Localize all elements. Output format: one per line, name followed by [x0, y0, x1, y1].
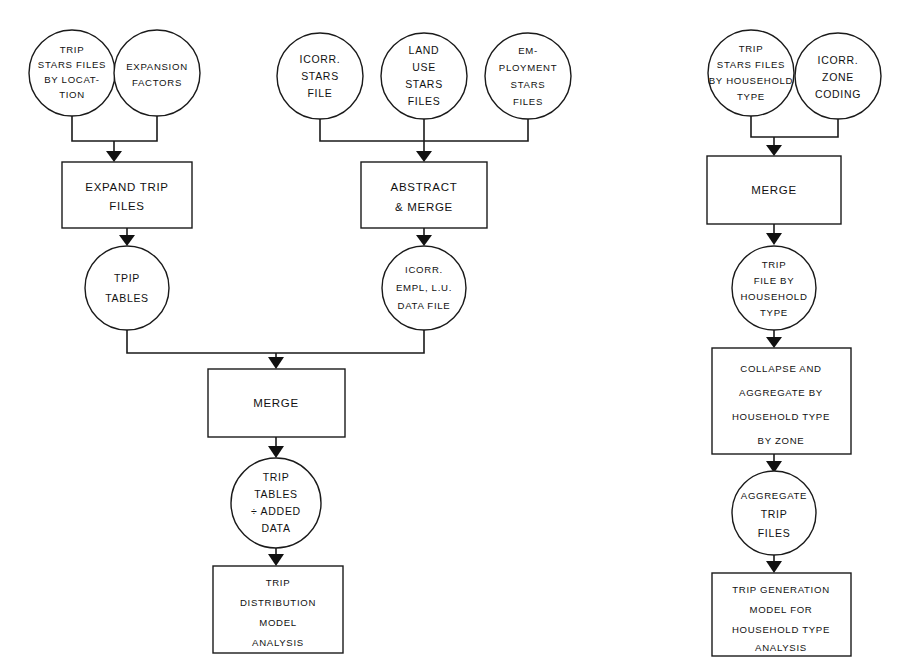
label-trip-file-household-line3: HOUSEHOLD [740, 291, 807, 302]
label-tpip-tables-line2: TABLES [105, 292, 149, 304]
group-middle-branch: ICORR. STARS FILE LAND USE STARS FILES E… [277, 33, 571, 330]
group-center-merge: MERGE TRIP TABLES ÷ ADDED DATA TRIP DIST… [127, 330, 424, 653]
label-collapse-line3: HOUSEHOLD TYPE [732, 411, 830, 422]
label-land-use-line1: LAND [409, 44, 440, 56]
node-trip-stars-files-by-location[interactable] [29, 30, 115, 116]
label-trip-stars-household-line3: BY HOUSEHOLD [709, 75, 793, 86]
label-icorr-empl-line1: ICORR. [405, 264, 443, 275]
node-tpip-tables[interactable] [85, 246, 169, 330]
label-aggregate-trip-line3: FILES [758, 527, 791, 539]
label-expand-trip-files-line2: FILES [109, 200, 144, 212]
label-trip-stars-by-location-line3: BY LOCAT- [44, 74, 100, 85]
label-trip-file-household-line2: FILE BY [754, 275, 795, 286]
label-merge-center: MERGE [253, 397, 299, 409]
label-trip-tables-added-line3: ÷ ADDED [251, 505, 301, 517]
label-collapse-line4: BY ZONE [758, 435, 805, 446]
label-icorr-zone-line3: CODING [815, 88, 861, 100]
label-icorr-stars-file-line3: FILE [308, 87, 333, 99]
label-trip-distribution-line1: TRIP [266, 577, 291, 588]
label-icorr-stars-file-line1: ICORR. [300, 53, 341, 65]
label-employment-line3: STARS [511, 79, 546, 90]
label-trip-generation-line1: TRIP GENERATION [732, 584, 830, 595]
label-trip-stars-household-line2: STARS FILES [717, 59, 785, 70]
label-trip-generation-line2: MODEL FOR [750, 604, 813, 615]
label-aggregate-trip-line2: TRIP [761, 508, 788, 520]
group-left-branch: TRIP STARS FILES BY LOCAT- TION EXPANSIO… [29, 30, 200, 330]
label-icorr-zone-line1: ICORR. [818, 54, 859, 66]
label-expand-trip-files-line1: EXPAND TRIP [85, 181, 168, 193]
label-trip-tables-added-line4: DATA [261, 522, 290, 534]
arrowhead-trip-generation-model [766, 561, 782, 573]
label-trip-stars-by-location-line1: TRIP [60, 44, 85, 55]
label-collapse-line2: AGGREGATE BY [739, 387, 823, 398]
label-expansion-factors-line2: FACTORS [132, 77, 182, 88]
label-land-use-line4: FILES [408, 95, 441, 107]
connector-household-and-zone-to-merge [751, 116, 838, 137]
label-trip-file-household-line4: TYPE [760, 307, 788, 318]
label-collapse-line1: COLLAPSE AND [740, 363, 821, 374]
label-trip-tables-added-line1: TRIP [263, 471, 290, 483]
arrowhead-trip-file-household-type [766, 233, 782, 245]
node-expand-trip-files[interactable] [62, 162, 192, 228]
arrowhead-collapse-and-aggregate [766, 337, 782, 348]
label-trip-distribution-line4: ANALYSIS [252, 637, 304, 648]
arrowhead-merge-right [766, 145, 782, 156]
group-right-branch: TRIP STARS FILES BY HOUSEHOLD TYPE ICORR… [707, 30, 881, 656]
label-trip-stars-household-line4: TYPE [737, 91, 765, 102]
arrowhead-icorr-empl-data-file [416, 235, 432, 246]
label-land-use-line2: USE [412, 61, 436, 73]
label-expansion-factors-line1: EXPANSION [126, 61, 188, 72]
label-trip-distribution-line2: DISTRIBUTION [240, 597, 316, 608]
node-expansion-factors[interactable] [114, 30, 200, 116]
label-trip-generation-line3: HOUSEHOLD TYPE [732, 624, 830, 635]
arrowhead-abstract-merge [416, 151, 432, 162]
label-icorr-empl-line3: DATA FILE [398, 300, 451, 311]
label-employment-line4: FILES [513, 96, 543, 107]
label-land-use-line3: STARS [405, 78, 443, 90]
label-employment-line1: EM- [518, 45, 538, 56]
label-trip-file-household-line1: TRIP [762, 259, 787, 270]
label-trip-stars-by-location-line2: STARS FILES [38, 59, 106, 70]
label-tpip-tables-line1: TPIP [114, 272, 140, 284]
label-icorr-zone-line2: ZONE [822, 71, 854, 83]
arrowhead-tpip-tables [119, 235, 135, 246]
node-abstract-and-merge[interactable] [361, 162, 487, 228]
arrowhead-trip-distribution-model [268, 554, 284, 566]
flowchart-svg: TRIP STARS FILES BY LOCAT- TION EXPANSIO… [0, 0, 903, 669]
label-trip-distribution-line3: MODEL [259, 617, 297, 628]
label-trip-stars-household-line1: TRIP [739, 43, 764, 54]
label-icorr-stars-file-line2: STARS [301, 70, 339, 82]
flowchart-canvas: TRIP STARS FILES BY LOCAT- TION EXPANSIO… [0, 0, 903, 669]
connector-location-to-expand [72, 116, 157, 141]
arrowhead-expand-trip-files [106, 151, 122, 162]
label-abstract-merge-line2: & MERGE [395, 201, 453, 213]
label-employment-line2: PLOYMENT [499, 62, 557, 73]
label-trip-stars-by-location-line4: TION [59, 89, 85, 100]
connector-tpip-and-icorr-to-merge [127, 330, 424, 353]
label-merge-right: MERGE [751, 184, 797, 196]
arrowhead-merge-center [268, 357, 284, 369]
label-aggregate-trip-line1: AGGREGATE [741, 490, 807, 501]
arrowhead-trip-tables-added-data [268, 446, 284, 458]
label-trip-generation-line4: ANALYSIS [755, 642, 807, 653]
label-trip-tables-added-line2: TABLES [254, 488, 298, 500]
label-abstract-merge-line1: ABSTRACT [391, 181, 458, 193]
label-icorr-empl-line2: EMPL, L.U. [396, 282, 452, 293]
